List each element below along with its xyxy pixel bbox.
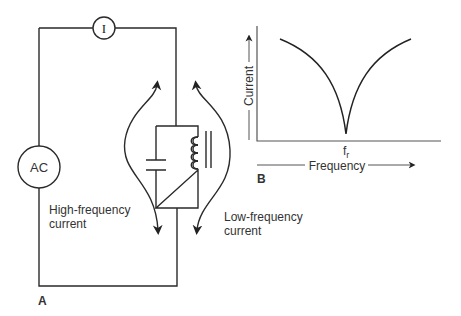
circuit-panel-a xyxy=(18,17,230,286)
low-frequency-arrow xyxy=(196,85,230,230)
y-axis-label: Current xyxy=(242,65,256,106)
high-frequency-label-line2: current xyxy=(49,217,87,231)
high-frequency-label-line1: High-frequency xyxy=(49,203,130,217)
resonance-frequency-label: fr xyxy=(343,144,349,160)
graph-axes xyxy=(257,26,441,141)
diagram-canvas: I AC High-frequency current Low-frequenc… xyxy=(0,0,461,316)
resonance-curve xyxy=(280,39,411,134)
ac-source-label: AC xyxy=(30,160,48,175)
wire-top xyxy=(39,28,176,126)
panel-b-label: B xyxy=(257,172,266,186)
low-frequency-label-line1: Low-frequency xyxy=(224,210,303,224)
x-axis-label: Frequency xyxy=(309,159,366,173)
inductor-symbol xyxy=(191,131,211,169)
low-frequency-label-line2: current xyxy=(224,224,262,238)
panel-a-label: A xyxy=(38,294,47,308)
ammeter-label: I xyxy=(102,21,106,36)
